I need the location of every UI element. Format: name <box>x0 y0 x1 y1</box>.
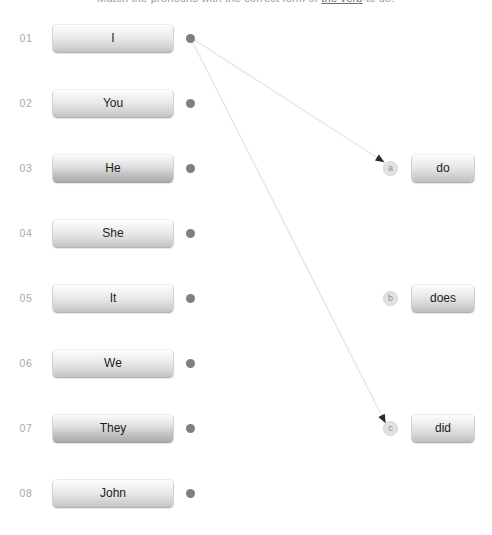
verb-form-row: cdid <box>383 412 492 444</box>
answer-badge-a[interactable]: a <box>383 161 398 176</box>
pronoun-row: 03He <box>0 152 210 184</box>
connector-dot-07[interactable] <box>186 424 195 433</box>
connector-dot-01[interactable] <box>186 34 195 43</box>
verb-form-button[interactable]: did <box>411 414 475 443</box>
row-number: 01 <box>0 32 52 44</box>
pronoun-row: 04She <box>0 217 210 249</box>
connector-dot-02[interactable] <box>186 99 195 108</box>
row-number: 06 <box>0 357 52 369</box>
connector-line-dot-01-to-c <box>190 37 387 426</box>
connector-dot-05[interactable] <box>186 294 195 303</box>
connector-dot-08[interactable] <box>186 489 195 498</box>
connector-dot-06[interactable] <box>186 359 195 368</box>
row-number: 04 <box>0 227 52 239</box>
row-number: 05 <box>0 292 52 304</box>
instruction-underlined-term: the verb <box>321 0 362 4</box>
row-number: 02 <box>0 97 52 109</box>
row-number: 03 <box>0 162 52 174</box>
pronoun-button[interactable]: They <box>52 414 174 443</box>
pronoun-button[interactable]: John <box>52 479 174 508</box>
answer-badge-c[interactable]: c <box>383 421 398 436</box>
connector-dot-04[interactable] <box>186 229 195 238</box>
pronoun-column: 01I02You03He04She05It06We07They08John <box>0 0 210 535</box>
row-number: 08 <box>0 487 52 499</box>
pronoun-button[interactable]: We <box>52 349 174 378</box>
row-number: 07 <box>0 422 52 434</box>
pronoun-row: 06We <box>0 347 210 379</box>
pronoun-row: 05It <box>0 282 210 314</box>
pronoun-row: 07They <box>0 412 210 444</box>
verb-form-button[interactable]: do <box>411 154 475 183</box>
pronoun-button[interactable]: He <box>52 154 174 183</box>
connector-dot-03[interactable] <box>186 164 195 173</box>
pronoun-button[interactable]: It <box>52 284 174 313</box>
answer-badge-b[interactable]: b <box>383 291 398 306</box>
verb-form-button[interactable]: does <box>411 284 475 313</box>
pronoun-button[interactable]: You <box>52 89 174 118</box>
connector-line-dot-01-to-a <box>190 37 387 164</box>
verb-form-column: adobdoescdid <box>383 0 492 535</box>
verb-form-row: bdoes <box>383 282 492 314</box>
pronoun-button[interactable]: She <box>52 219 174 248</box>
verb-form-row: ado <box>383 152 492 184</box>
pronoun-button[interactable]: I <box>52 24 174 53</box>
pronoun-row: 02You <box>0 87 210 119</box>
pronoun-row: 01I <box>0 22 210 54</box>
pronoun-row: 08John <box>0 477 210 509</box>
